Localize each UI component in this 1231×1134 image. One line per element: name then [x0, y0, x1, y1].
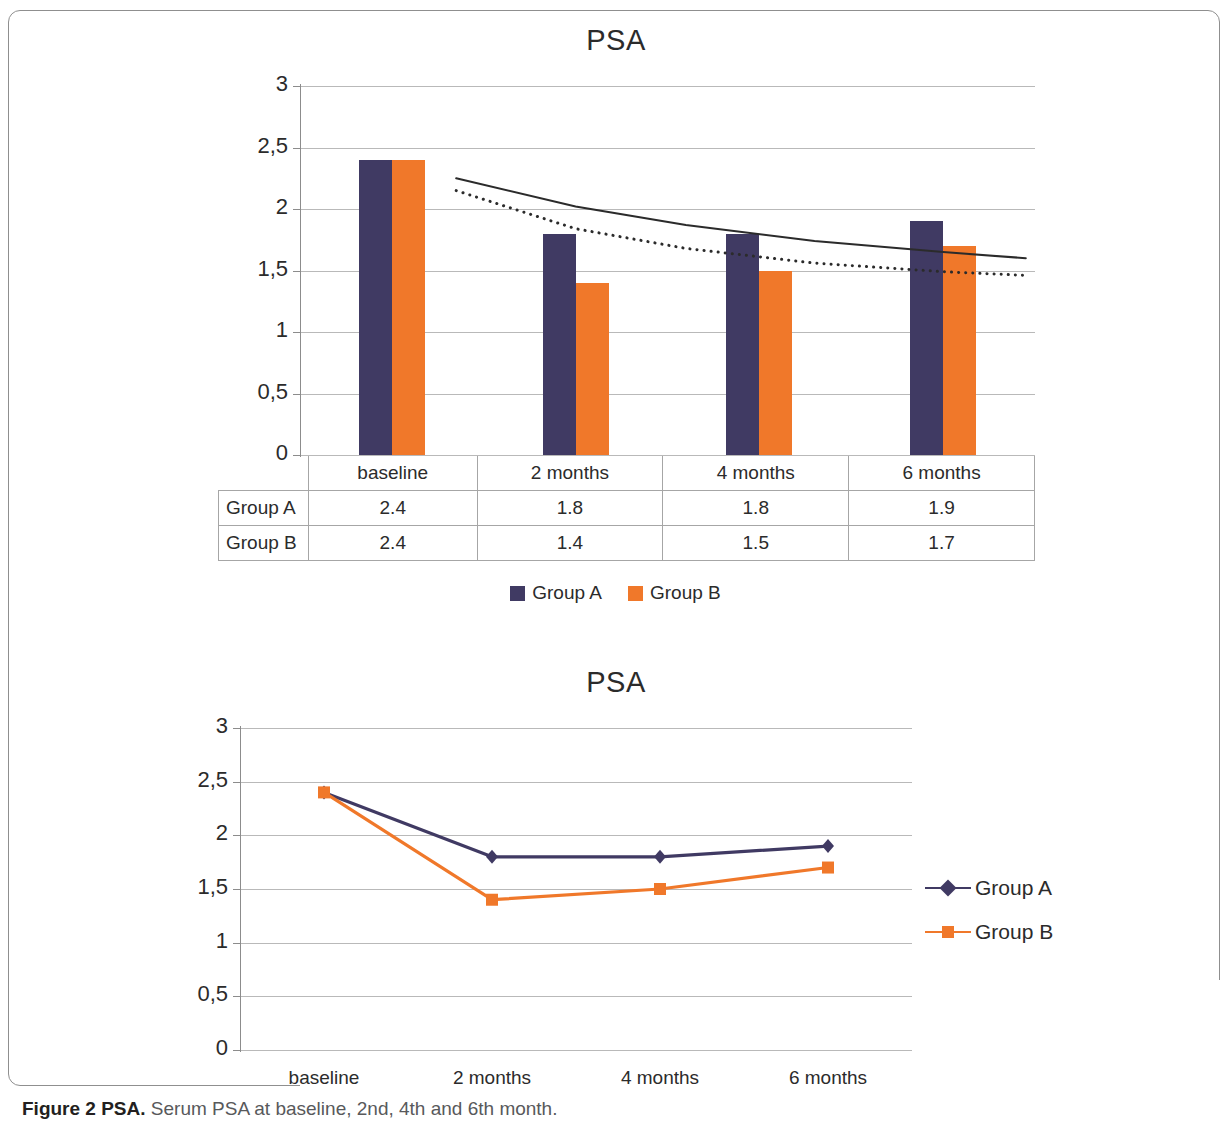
y-axis-tick-mark: [233, 1050, 240, 1051]
figure-caption-label: Figure 2 PSA.: [22, 1098, 146, 1119]
y-axis-tick-label: 3: [150, 715, 228, 737]
y-axis-tick-mark: [233, 943, 240, 944]
y-axis-tick-mark: [233, 889, 240, 890]
y-axis-tick-label: 2: [150, 822, 228, 844]
line-chart-title: PSA: [466, 666, 766, 699]
data-point-marker: [486, 894, 498, 906]
line-chart-plot-area: [240, 728, 912, 1050]
line-series-group-a: [324, 792, 828, 856]
y-axis-tick-mark: [233, 996, 240, 997]
data-point-marker: [654, 850, 666, 864]
x-axis-tick-label: baseline: [240, 1067, 408, 1089]
line-chart-psa: PSA 32,521,510,50 baseline2 months4 mont…: [0, 0, 1231, 1134]
data-point-marker: [822, 839, 834, 853]
x-axis-tick-label: 6 months: [744, 1067, 912, 1089]
y-axis-tick-mark: [233, 728, 240, 729]
line-chart-legend: Group A Group B: [925, 866, 1053, 954]
legend-line-marker-icon: [925, 877, 971, 899]
x-axis-tick-label: 4 months: [576, 1067, 744, 1089]
figure-caption-text: Serum PSA at baseline, 2nd, 4th and 6th …: [146, 1098, 558, 1119]
x-axis-tick-label: 2 months: [408, 1067, 576, 1089]
y-axis-tick-label: 0: [150, 1037, 228, 1059]
data-point-marker: [318, 786, 330, 798]
data-point-marker: [486, 850, 498, 864]
figure-caption: Figure 2 PSA. Serum PSA at baseline, 2nd…: [22, 1098, 557, 1120]
legend-label: Group A: [975, 876, 1052, 900]
line-series-group-b: [324, 792, 828, 899]
y-axis-tick-label: 2,5: [150, 769, 228, 791]
data-point-marker: [822, 862, 834, 874]
data-point-marker: [654, 883, 666, 895]
y-axis-tick-label: 1,5: [150, 876, 228, 898]
legend-item-group-a: Group A: [925, 866, 1053, 910]
y-axis-tick-mark: [233, 782, 240, 783]
gridline: [240, 1050, 912, 1051]
legend-line-marker-icon: [925, 921, 971, 943]
y-axis-tick-label: 1: [150, 930, 228, 952]
y-axis-tick-mark: [233, 835, 240, 836]
y-axis-tick-label: 0,5: [150, 983, 228, 1005]
legend-label: Group B: [975, 920, 1053, 944]
legend-item-group-b: Group B: [925, 910, 1053, 954]
